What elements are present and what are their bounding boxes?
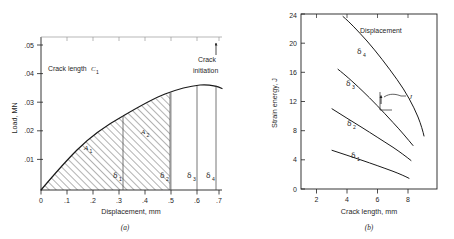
shaded-area-a1 bbox=[41, 116, 123, 190]
panel-a-crack-length-annotation: Crack length C 1 bbox=[48, 65, 99, 75]
panel-a-ytick-2: .03 bbox=[24, 99, 34, 106]
svg-text:2: 2 bbox=[353, 124, 356, 130]
panel-a-delta3-label: δ 3 bbox=[187, 171, 196, 182]
panel-a-x-axis-label: Displacement, mm bbox=[101, 207, 161, 216]
panel-b-top-ticks bbox=[317, 14, 409, 18]
panel-b-caption: (b) bbox=[365, 223, 374, 232]
svg-text:2: 2 bbox=[147, 132, 150, 138]
svg-text:2: 2 bbox=[166, 176, 169, 182]
svg-text:δ: δ bbox=[346, 79, 351, 88]
svg-text:δ: δ bbox=[206, 171, 211, 180]
panel-a-top-ticks bbox=[67, 37, 219, 41]
figure-container: .01 .02 .03 .04 .05 0 .1 .2 .3 bbox=[0, 0, 454, 239]
panel-b-j-label: J bbox=[409, 93, 413, 100]
svg-text:3: 3 bbox=[352, 84, 355, 90]
panel-b-x-axis-label: Crack length, mm bbox=[341, 207, 397, 216]
panel-b-ytick-0: 0 bbox=[293, 186, 297, 193]
panel-a-xtick-1: .1 bbox=[64, 197, 70, 204]
panel-b-xtick-1: 4 bbox=[345, 196, 349, 203]
panel-b-ytick-1: 4 bbox=[293, 156, 297, 163]
svg-text:δ: δ bbox=[113, 171, 118, 180]
panel-b-xtick-3: 8 bbox=[406, 196, 410, 203]
svg-text:4: 4 bbox=[363, 52, 366, 58]
svg-text:4: 4 bbox=[212, 176, 215, 182]
panel-a-y-ticks bbox=[37, 45, 43, 159]
panel-a-x-ticks bbox=[41, 190, 219, 195]
svg-text:3: 3 bbox=[193, 176, 196, 182]
panel-a-ytick-3: .04 bbox=[24, 70, 34, 77]
panel-a-xtick-5: .5 bbox=[168, 197, 174, 204]
svg-text:δ: δ bbox=[160, 171, 165, 180]
panel-a-ytick-1: .02 bbox=[24, 127, 34, 134]
panel-a-y-axis-label: Load, MN bbox=[10, 102, 19, 133]
svg-text:δ: δ bbox=[187, 171, 192, 180]
panel-a-xtick-4: .4 bbox=[142, 197, 148, 204]
panel-b: 0 4 8 12 16 20 24 2 4 6 8 Crack length, … bbox=[270, 12, 437, 233]
panel-b-displacement-label: Displacement bbox=[360, 27, 402, 35]
panel-a-xtick-2: .2 bbox=[90, 197, 96, 204]
panel-a-xtick-6: .6 bbox=[194, 197, 200, 204]
svg-text:1: 1 bbox=[357, 156, 360, 162]
panel-a-ytick-0: .01 bbox=[24, 156, 34, 163]
panel-b-ytick-6: 24 bbox=[289, 12, 297, 19]
panel-a-crack-initiation-annotation: Crack initiation bbox=[193, 43, 218, 74]
svg-text:A: A bbox=[140, 128, 146, 135]
svg-text:A: A bbox=[83, 144, 89, 151]
svg-text:initiation: initiation bbox=[193, 67, 218, 74]
svg-text:1: 1 bbox=[119, 176, 122, 182]
panel-b-curve-delta1 bbox=[332, 150, 409, 178]
panel-b-curve-delta2 bbox=[332, 109, 411, 161]
svg-text:δ: δ bbox=[357, 47, 362, 56]
figure-svg: .01 .02 .03 .04 .05 0 .1 .2 .3 bbox=[0, 0, 454, 239]
panel-b-ytick-5: 20 bbox=[289, 40, 297, 47]
panel-b-j-slope-indicator bbox=[380, 92, 406, 110]
panel-b-delta1-label: δ 1 bbox=[351, 151, 360, 162]
svg-text:Crack length: Crack length bbox=[48, 65, 87, 73]
panel-a-ytick-4: .05 bbox=[24, 42, 34, 49]
svg-text:Crack: Crack bbox=[198, 56, 217, 63]
svg-text:1: 1 bbox=[96, 69, 99, 75]
panel-b-ytick-2: 8 bbox=[293, 127, 297, 134]
panel-a-xtick-7: .7 bbox=[216, 197, 222, 204]
panel-b-y-axis-label: Strain energy, J bbox=[270, 78, 279, 128]
panel-b-delta3-label: δ 3 bbox=[346, 79, 355, 90]
svg-text:δ: δ bbox=[351, 151, 356, 160]
panel-b-delta4-label: δ 4 bbox=[357, 47, 366, 58]
panel-b-ytick-3: 12 bbox=[289, 98, 297, 105]
panel-b-x-ticks bbox=[317, 189, 409, 194]
panel-b-xtick-0: 2 bbox=[315, 196, 319, 203]
panel-a-xtick-3: .3 bbox=[116, 197, 122, 204]
panel-a-delta4-label: δ 4 bbox=[206, 171, 215, 182]
panel-b-delta2-label: δ 2 bbox=[347, 119, 356, 130]
panel-a-caption: (a) bbox=[121, 223, 130, 232]
panel-a-xtick-0: 0 bbox=[39, 197, 43, 204]
svg-text:δ: δ bbox=[347, 119, 352, 128]
panel-a: .01 .02 .03 .04 .05 0 .1 .2 .3 bbox=[10, 37, 222, 232]
panel-b-curve-delta4 bbox=[343, 17, 424, 137]
panel-b-y-ticks bbox=[301, 14, 305, 189]
svg-text:1: 1 bbox=[90, 148, 93, 154]
panel-b-ytick-4: 16 bbox=[289, 69, 297, 76]
panel-b-xtick-2: 6 bbox=[376, 196, 380, 203]
